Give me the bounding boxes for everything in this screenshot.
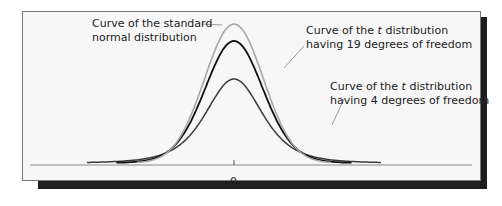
t19-annotation: Curve of the t distribution having 19 de… — [306, 24, 472, 52]
normal-annotation-line1: Curve of the standard — [92, 17, 212, 31]
t4-annotation-line1: Curve of the t distribution — [330, 80, 489, 94]
t19-curve — [116, 41, 351, 163]
normal-annotation-line2: normal distribution — [92, 31, 212, 45]
normal-annotation: Curve of the standard normal distributio… — [92, 17, 212, 45]
t19-leader-line — [284, 46, 304, 68]
t19-annotation-line2: having 19 degrees of freedom — [306, 38, 472, 52]
zero-tick-label: 0 — [230, 175, 237, 188]
t19-annotation-line1: Curve of the t distribution — [306, 24, 472, 38]
t4-annotation: Curve of the t distribution having 4 deg… — [330, 80, 489, 108]
t4-annotation-line2: having 4 degrees of freedom — [330, 94, 489, 108]
